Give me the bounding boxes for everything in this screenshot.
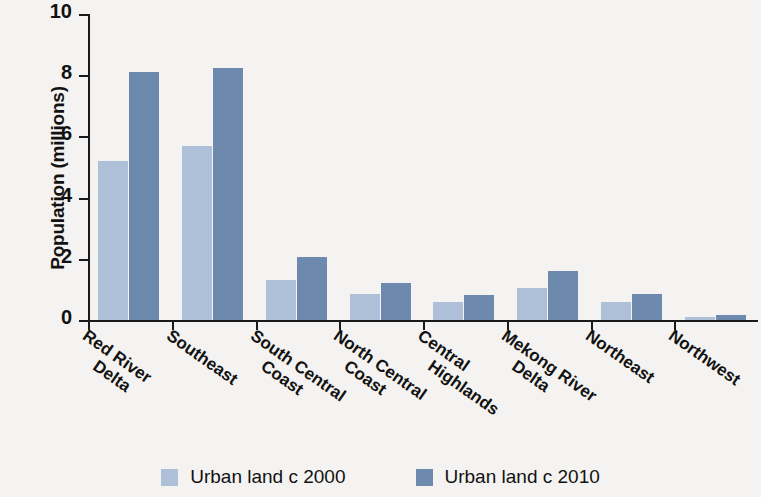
bar	[266, 280, 296, 320]
bar-chart: Population (millions) 0246810 Red RiverD…	[0, 0, 761, 497]
bar	[433, 302, 463, 320]
bar	[98, 161, 128, 320]
bar	[464, 295, 494, 320]
bar	[716, 315, 746, 320]
bar	[182, 146, 212, 320]
x-axis-label-line: Northwest	[665, 326, 744, 389]
y-axis-tick: 8	[79, 75, 88, 77]
legend-label: Urban land c 2010	[445, 466, 600, 488]
y-axis-tick: 0	[79, 320, 88, 322]
bar	[129, 72, 159, 320]
legend-label: Urban land c 2000	[190, 466, 345, 488]
x-axis-label: CentralHighlands	[403, 326, 513, 419]
bar	[297, 257, 327, 320]
x-axis-line	[79, 320, 758, 322]
y-axis-tick: 4	[79, 198, 88, 200]
legend-item[interactable]: Urban land c 2010	[416, 466, 600, 488]
y-axis-tick-label: 2	[61, 246, 72, 266]
bar	[685, 317, 715, 320]
x-axis-category-labels: Red RiverDeltaSoutheastSouth CentralCoas…	[88, 326, 758, 451]
y-axis-tick-label: 0	[61, 307, 72, 327]
bar	[517, 288, 547, 320]
x-axis-label: Northeast	[582, 326, 658, 387]
y-axis-line	[88, 14, 90, 321]
y-axis-tick: 6	[79, 136, 88, 138]
x-axis-label: Northwest	[665, 326, 744, 389]
bar	[350, 294, 380, 320]
y-axis-tick: 2	[79, 259, 88, 261]
bar	[381, 283, 411, 320]
bar	[213, 68, 243, 320]
chart-legend: Urban land c 2000Urban land c 2010	[0, 466, 761, 488]
bar	[601, 302, 631, 320]
bar	[632, 294, 662, 320]
legend-swatch-icon	[416, 469, 433, 486]
y-axis-tick-label: 8	[61, 62, 72, 82]
y-axis-tick-label: 6	[61, 123, 72, 143]
y-axis-tick-label: 4	[61, 185, 72, 205]
legend-item[interactable]: Urban land c 2000	[161, 466, 345, 488]
bar	[548, 271, 578, 320]
x-axis-label: Red RiverDelta	[68, 326, 155, 403]
x-axis-label-line: Northeast	[582, 326, 658, 387]
y-axis-tick: 10	[79, 14, 88, 16]
y-axis-tick-label: 10	[50, 1, 72, 21]
plot-area: 0246810	[88, 14, 758, 320]
x-axis-label-line: Southeast	[163, 326, 241, 389]
legend-swatch-icon	[161, 469, 178, 486]
x-axis-label: Southeast	[163, 326, 241, 389]
